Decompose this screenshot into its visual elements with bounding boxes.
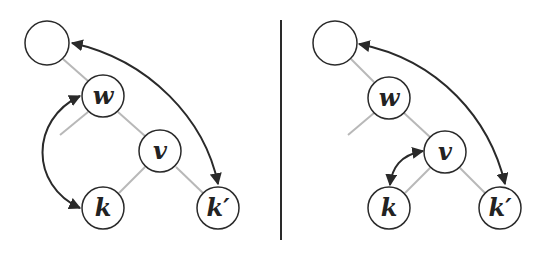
edge-v-kprime: [460, 168, 485, 193]
label-kprime: k′: [489, 193, 513, 222]
edge-w-v: [404, 113, 430, 137]
edge-root-w: [351, 59, 374, 82]
label-k: k: [381, 193, 398, 222]
node-root: [25, 21, 69, 65]
edge-v-k: [405, 168, 430, 193]
swap-arrow-w-k: [43, 96, 81, 208]
edge-v-k: [119, 167, 145, 193]
edge-w-stub: [348, 113, 374, 135]
label-v: v: [438, 137, 453, 166]
label-w: w: [379, 83, 401, 112]
right-panel: w v k k′: [313, 21, 521, 229]
left-panel: w v k k′: [25, 21, 239, 229]
label-v: v: [153, 136, 168, 165]
swap-diagram: w v k k′ w v k k′: [0, 0, 555, 258]
label-w: w: [93, 81, 115, 110]
label-k: k: [95, 193, 112, 222]
label-kprime: k′: [207, 193, 231, 222]
node-root: [313, 21, 357, 65]
edge-root-w: [63, 59, 88, 81]
edge-w-stub: [60, 112, 88, 135]
edge-v-kprime: [176, 167, 203, 193]
edge-w-v: [118, 112, 145, 136]
